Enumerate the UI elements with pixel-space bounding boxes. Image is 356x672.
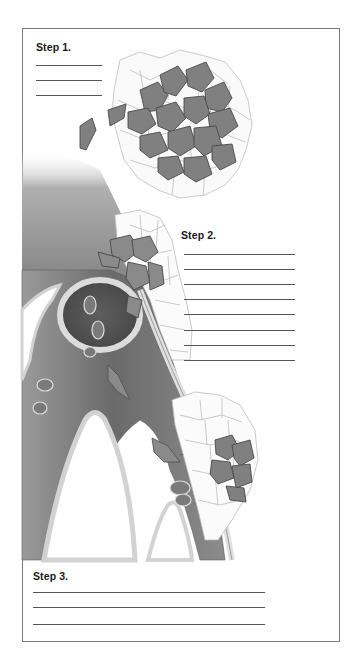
step-1-answer-line-1[interactable] xyxy=(36,65,102,66)
step-2-answer-line-2[interactable] xyxy=(184,269,295,270)
step-2-answer-line-5[interactable] xyxy=(184,314,295,315)
step-2-label: Step 2. xyxy=(181,229,216,241)
step-2-answer-line-8[interactable] xyxy=(184,360,295,361)
step-1-answer-line-2[interactable] xyxy=(36,80,102,81)
step-1-label: Step 1. xyxy=(36,41,71,53)
vessel-branch-gap-2 xyxy=(148,502,192,560)
step-2-answer-line-4[interactable] xyxy=(184,299,295,300)
vessel-lumen xyxy=(60,280,140,350)
step-3-label: Step 3. xyxy=(33,570,68,582)
step-1-answer-line-3[interactable] xyxy=(36,95,102,96)
step-2-answer-line-6[interactable] xyxy=(184,330,295,331)
step-3-answer-line-3[interactable] xyxy=(33,624,265,625)
step-3-answer-line-1[interactable] xyxy=(33,592,265,593)
step-2-answer-line-7[interactable] xyxy=(184,345,295,346)
step-2-answer-line-1[interactable] xyxy=(184,254,295,255)
step-3-answer-line-2[interactable] xyxy=(33,607,265,608)
step-2-answer-line-3[interactable] xyxy=(184,284,295,285)
